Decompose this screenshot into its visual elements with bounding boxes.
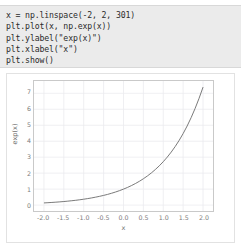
y-tick-label: 4 [9, 138, 31, 144]
x-tick-label: 2.0 [192, 214, 216, 221]
code-line: plt.ylabel("exp(x)") [6, 33, 241, 44]
y-tick-label: 1 [9, 187, 31, 193]
code-block: x = np.linspace(-2, 2, 301) plt.plot(x, … [0, 5, 241, 68]
x-axis-label: x [33, 224, 214, 232]
exp-curve [34, 81, 213, 211]
y-tick-label: 5 [9, 122, 31, 128]
notebook-cell-output: x = np.linspace(-2, 2, 301) plt.plot(x, … [0, 0, 241, 248]
matplotlib-figure: exp(x) 01234567 -2.0-1.5-1.0-0.50.00.51.… [6, 73, 235, 243]
plot-axes [33, 80, 214, 212]
y-tick-label: 7 [9, 89, 31, 95]
code-line: plt.show() [6, 55, 241, 66]
code-line: plt.plot(x, np.exp(x)) [6, 21, 241, 32]
code-line: plt.xlabel("x") [6, 44, 241, 55]
plot-area-wrapper: exp(x) 01234567 -2.0-1.5-1.0-0.50.00.51.… [7, 74, 236, 244]
y-axis-ticks: 01234567 [7, 80, 31, 212]
y-tick-label: 2 [9, 171, 31, 177]
y-tick-label: 0 [9, 203, 31, 209]
code-line: x = np.linspace(-2, 2, 301) [6, 10, 241, 21]
y-tick-label: 3 [9, 154, 31, 160]
x-axis-ticks: -2.0-1.5-1.0-0.50.00.51.01.52.0 [33, 214, 214, 224]
y-tick-label: 6 [9, 106, 31, 112]
